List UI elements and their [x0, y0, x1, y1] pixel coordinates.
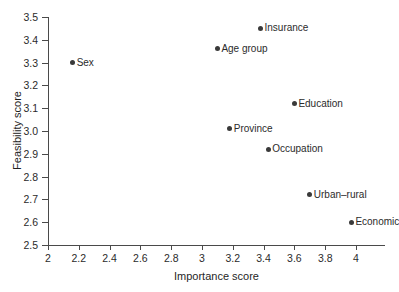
data-point-marker — [227, 126, 232, 131]
y-tick-mark — [42, 108, 48, 109]
x-tick-label: 4 — [336, 253, 376, 264]
x-tick-mark — [48, 245, 49, 250]
scatter-plot-figure: 2.52.62.72.82.93.03.13.23.33.43.5 22.22.… — [0, 0, 399, 292]
data-point-label: Age group — [221, 43, 267, 54]
x-tick-mark — [202, 245, 203, 250]
y-axis-title: Feasibility score — [12, 61, 23, 201]
x-tick-mark — [233, 245, 234, 250]
y-tick-label: 3.5 — [0, 12, 38, 23]
data-point-label: Economic — [355, 216, 399, 227]
x-tick-mark — [294, 245, 295, 250]
y-tick-mark — [42, 199, 48, 200]
plot-area: 2.52.62.72.82.93.03.13.23.33.43.5 22.22.… — [0, 0, 399, 292]
data-point-label: Province — [234, 123, 273, 134]
y-tick-mark — [42, 40, 48, 41]
data-point-marker — [258, 26, 263, 31]
data-point-marker — [70, 60, 75, 65]
data-point-marker — [292, 101, 297, 106]
x-tick-mark — [79, 245, 80, 250]
x-axis-title: Importance score — [48, 271, 385, 282]
y-tick-mark — [42, 222, 48, 223]
data-point-marker — [349, 220, 354, 225]
x-tick-mark — [140, 245, 141, 250]
y-tick-label: 2.6 — [0, 217, 38, 228]
data-point-label: Education — [298, 98, 342, 109]
y-tick-mark — [42, 63, 48, 64]
data-point-label: Occupation — [272, 143, 323, 154]
data-point-label: Insurance — [265, 22, 309, 33]
y-tick-mark — [42, 154, 48, 155]
x-axis-line — [48, 245, 385, 246]
data-point-marker — [307, 192, 312, 197]
x-tick-mark — [356, 245, 357, 250]
x-tick-mark — [171, 245, 172, 250]
data-point-label: Sex — [77, 57, 94, 68]
data-point-marker — [266, 147, 271, 152]
y-tick-mark — [42, 177, 48, 178]
y-tick-label: 3.4 — [0, 35, 38, 46]
y-axis-line — [48, 17, 49, 245]
x-tick-mark — [264, 245, 265, 250]
x-tick-mark — [110, 245, 111, 250]
y-tick-mark — [42, 131, 48, 132]
y-tick-label: 2.5 — [0, 240, 38, 251]
y-tick-mark — [42, 17, 48, 18]
x-tick-mark — [325, 245, 326, 250]
y-tick-mark — [42, 85, 48, 86]
data-point-marker — [215, 46, 220, 51]
data-point-label: Urban–rural — [314, 189, 367, 200]
